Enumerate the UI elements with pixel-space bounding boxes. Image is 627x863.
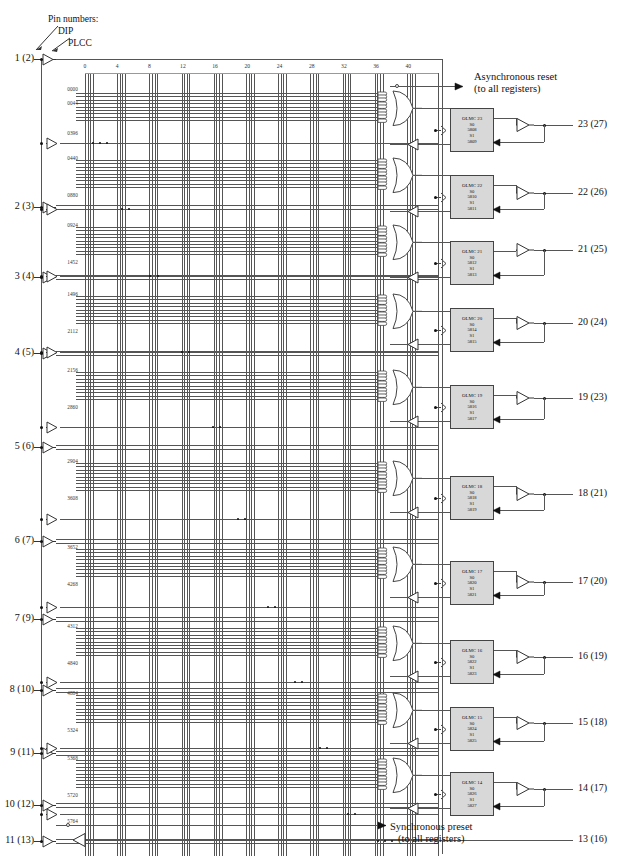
product-term-line-6-5 <box>76 566 378 567</box>
olmc-block-0[interactable]: OLMC 23S05808S15809 <box>450 108 494 152</box>
oe-buffer-icon-0 <box>405 139 419 150</box>
product-term-line-3-6 <box>76 316 378 317</box>
input-buffer-icon-0 <box>42 54 56 65</box>
product-term-line-5-8 <box>76 490 378 491</box>
feedback-bus-junction-7 <box>40 681 43 684</box>
array-column-line-5 <box>120 73 121 856</box>
product-term-line-6-6 <box>76 569 378 570</box>
output-feedback-line-4 <box>496 419 544 420</box>
output-pin-label-8: 15 (18) <box>578 716 607 727</box>
and-gate-icon-1-8 <box>378 186 390 189</box>
product-term-line-2-8 <box>76 254 378 255</box>
feedback-line-3 <box>60 352 438 353</box>
input-pin-label-7: 8 (10) <box>0 683 34 694</box>
product-term-line-7-4 <box>76 642 378 643</box>
olmc-block-2[interactable]: OLMC 21S05812S15813 <box>450 241 494 285</box>
feedback-arrow-icon-9 <box>492 803 500 810</box>
array-column-line-23 <box>254 73 255 856</box>
olmc-block-8[interactable]: OLMC 15S05824S15825 <box>450 707 494 751</box>
olmc-block-3[interactable]: OLMC 20S05814S15815 <box>450 308 494 352</box>
input-bus-junction-0 <box>40 58 43 61</box>
or-output-line-6 <box>413 564 450 565</box>
product-term-line-6-8 <box>76 576 378 577</box>
olmc-block-6[interactable]: OLMC 17S05820S15821 <box>450 561 494 605</box>
product-term-line-6-7 <box>76 573 378 574</box>
and-gate-icon-7-8 <box>378 654 390 657</box>
input-pin-label-1: 2 (3) <box>0 200 34 211</box>
product-term-line-8-1 <box>76 698 378 699</box>
output-feedback-riser-7 <box>544 657 545 674</box>
olmc-s1-value: 5827 <box>467 803 476 809</box>
output-pin-label-0: 23 (27) <box>578 118 607 129</box>
array-column-line-18 <box>219 73 220 856</box>
row-number-label-0: 0000 <box>52 86 78 92</box>
product-term-line-0-1 <box>76 96 378 97</box>
feedback-arrow-icon-8 <box>492 738 500 745</box>
olmc-s1-value: 5825 <box>467 738 476 744</box>
column-label-32: 32 <box>341 63 347 69</box>
array-column-line-31 <box>318 73 319 856</box>
olmc-s1-value: 5817 <box>467 416 476 422</box>
or-output-line-5 <box>413 478 450 479</box>
pin13-buffer-icon <box>70 833 86 847</box>
product-term-line-5-7 <box>76 487 378 488</box>
product-term-line-0-2 <box>76 100 378 101</box>
oe-buffer-icon-5 <box>405 507 419 518</box>
product-term-line-1-6 <box>76 180 378 181</box>
output-pin-label-5: 18 (21) <box>578 487 607 498</box>
pin13-out-line <box>487 840 573 841</box>
product-term-line-2-4 <box>76 241 378 242</box>
output-feedback-line-8 <box>496 741 544 742</box>
olmc-block-4[interactable]: OLMC 19S05816S15817 <box>450 385 494 429</box>
column-label-0: 0 <box>84 63 87 69</box>
array-column-line-16 <box>214 73 215 856</box>
or-output-line-2 <box>413 242 450 243</box>
product-term-line-7-2 <box>76 635 378 636</box>
product-term-line-2-6 <box>76 247 378 248</box>
input-true-line-4 <box>56 445 438 446</box>
column-label-16: 16 <box>212 63 218 69</box>
product-term-line-9-7 <box>76 784 378 785</box>
product-term-line-0-3 <box>76 103 378 104</box>
olmc-block-5[interactable]: OLMC 18S05818S15819 <box>450 476 494 520</box>
array-column-line-12 <box>182 73 183 856</box>
and-gate-icon-3-8 <box>378 322 390 325</box>
feedback-bus-junction-9 <box>40 813 43 816</box>
product-term-line-7-7 <box>76 652 378 653</box>
column-label-20: 20 <box>245 63 251 69</box>
product-term-line-8-8 <box>76 722 378 723</box>
olmc-oe-line-5 <box>390 512 450 513</box>
row-number-label-6: 1452 <box>52 259 78 265</box>
array-top-border <box>85 73 438 74</box>
olmc-block-9[interactable]: OLMC 14S05826S15827 <box>450 772 494 816</box>
feedback-bus-junction-2 <box>40 275 43 278</box>
olmc-oe-line-3 <box>390 344 450 345</box>
row-number-label-7: 1496 <box>52 291 78 297</box>
product-term-line-4-8 <box>76 399 378 400</box>
olmc-s1-value: 5815 <box>467 339 476 345</box>
and-gate-icon-9-8 <box>378 786 390 789</box>
olmc-clock-junction-8 <box>434 728 437 731</box>
output-feedback-riser-1 <box>544 193 545 209</box>
column-label-4: 4 <box>116 63 119 69</box>
or-output-line-0 <box>413 108 450 109</box>
row-number-label-4: 0880 <box>52 192 78 198</box>
product-term-line-1-1 <box>76 163 378 164</box>
output-pin-line-7 <box>534 657 573 658</box>
olmc-clock-junction-6 <box>434 582 437 585</box>
product-term-line-1-3 <box>76 170 378 171</box>
sync-preset-arrow-icon <box>378 822 388 830</box>
olmc-clock-junction-7 <box>434 661 437 664</box>
array-column-line-20 <box>246 73 247 856</box>
and-gate-icon-5-8 <box>378 489 390 492</box>
async-reset-sublabel: (to all registers) <box>474 83 540 94</box>
olmc-block-1[interactable]: OLMC 22S05810S15811 <box>450 175 494 219</box>
feedback-buffer-icon-8 <box>46 743 60 754</box>
product-term-line-9-1 <box>76 763 378 764</box>
output-feedback-riser-9 <box>544 789 545 806</box>
olmc-block-7[interactable]: OLMC 16S05822S15823 <box>450 640 494 684</box>
array-column-line-6 <box>122 73 123 856</box>
array-column-line-24 <box>278 73 279 856</box>
product-term-line-1-4 <box>76 174 378 175</box>
product-term-line-0-5 <box>76 110 378 111</box>
